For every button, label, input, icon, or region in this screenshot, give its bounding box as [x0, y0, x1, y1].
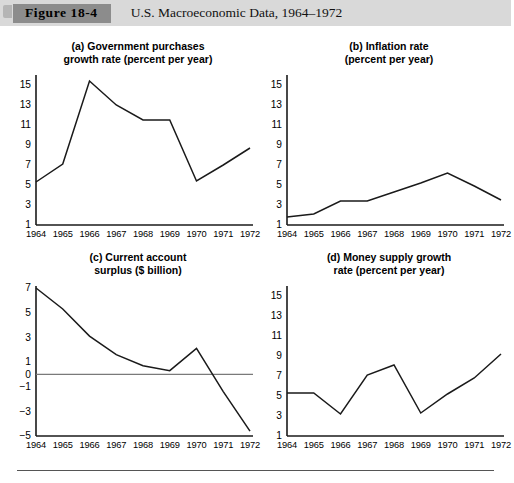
panel-b-plot: 13579111315 1964196519661967196819691970…: [257, 67, 507, 247]
x-tick-label: 1968: [381, 229, 408, 239]
x-tick-label: 1969: [407, 440, 434, 450]
x-tick-label: 1967: [103, 229, 130, 239]
x-tick-label: 1964: [274, 440, 301, 450]
x-tick-label: 1967: [354, 440, 381, 450]
y-tick-label: 15: [271, 290, 283, 301]
page-corner-marker: [3, 5, 12, 18]
panel-c-x-axis-labels: 196419651966196719681969197019711972: [23, 440, 264, 450]
y-tick-label: 7: [276, 159, 282, 170]
x-tick-label: 1969: [407, 229, 434, 239]
y-tick-label: 13: [271, 99, 283, 110]
x-tick-label: 1970: [183, 440, 210, 450]
x-tick-label: 1966: [327, 440, 354, 450]
y-tick-label: 9: [276, 350, 282, 361]
x-tick-label: 1968: [130, 440, 157, 450]
y-tick-label: 3: [25, 332, 31, 343]
data-series-line: [36, 81, 250, 182]
panel-b-svg: 13579111315: [257, 67, 507, 247]
x-tick-label: 1966: [76, 440, 103, 450]
x-tick-label: 1971: [461, 440, 488, 450]
y-tick-label: 3: [276, 410, 282, 421]
footer-rule: [17, 470, 494, 471]
y-tick-label: 5: [25, 307, 31, 318]
x-tick-label: 1967: [354, 229, 381, 239]
y-tick-label: 7: [25, 282, 31, 293]
y-tick-label: 7: [25, 159, 31, 170]
x-tick-label: 1969: [156, 440, 183, 450]
x-tick-label: 1972: [488, 229, 514, 239]
x-tick-label: 1964: [23, 440, 50, 450]
panel-b-x-axis-labels: 196419651966196719681969197019711972: [274, 229, 514, 239]
x-tick-label: 1965: [49, 229, 76, 239]
y-tick-label: −3: [19, 406, 31, 417]
y-tick-label: 1: [25, 356, 31, 367]
figure-caption: U.S. Macroeconomic Data, 1964–1972: [131, 5, 342, 21]
x-tick-label: 1966: [76, 229, 103, 239]
x-tick-label: 1968: [130, 229, 157, 239]
data-series-line: [36, 288, 250, 431]
x-tick-label: 1964: [274, 229, 301, 239]
panel-a-title: (a) Government purchases growth rate (pe…: [6, 36, 256, 65]
x-tick-label: 1964: [23, 229, 50, 239]
y-tick-label: 9: [276, 139, 282, 150]
panel-c-plot: −5−3−101357 1964196519661967196819691970…: [6, 278, 256, 458]
panel-a-plot: 13579111315 1964196519661967196819691970…: [6, 67, 256, 247]
panel-d-svg: 13579111315: [257, 278, 507, 458]
x-tick-label: 1972: [488, 440, 514, 450]
y-tick-label: 5: [276, 179, 282, 190]
y-tick-label: 7: [276, 370, 282, 381]
panel-d-x-axis-labels: 196419651966196719681969197019711972: [274, 440, 514, 450]
panel-c-svg: −5−3−101357: [6, 278, 256, 458]
y-tick-label: 15: [20, 79, 32, 90]
panel-b-title: (b) Inflation rate (percent per year): [257, 36, 507, 65]
panel-d-title: (d) Money supply growth rate (percent pe…: [257, 247, 507, 276]
y-tick-label: −1: [19, 381, 31, 392]
panel-a-x-axis-labels: 196419651966196719681969197019711972: [23, 229, 264, 239]
panel-a-government-purchases: (a) Government purchases growth rate (pe…: [6, 36, 256, 248]
figure-number-tab: Figure 18-4: [13, 4, 111, 23]
x-tick-label: 1970: [183, 229, 210, 239]
x-tick-label: 1967: [103, 440, 130, 450]
y-tick-label: 13: [271, 310, 283, 321]
x-tick-label: 1971: [210, 229, 237, 239]
x-tick-label: 1971: [461, 229, 488, 239]
y-tick-label: 5: [25, 179, 31, 190]
y-tick-label: 0: [25, 369, 31, 380]
chart-panel-grid: (a) Government purchases growth rate (pe…: [0, 36, 511, 461]
x-tick-label: 1965: [300, 229, 327, 239]
panel-d-money-supply: (d) Money supply growth rate (percent pe…: [257, 247, 507, 459]
y-tick-label: 11: [271, 119, 282, 130]
y-tick-label: 9: [25, 139, 31, 150]
x-tick-label: 1970: [434, 229, 461, 239]
x-tick-label: 1965: [300, 440, 327, 450]
data-series-line: [287, 173, 501, 217]
y-tick-label: 15: [271, 79, 283, 90]
panel-c-title: (c) Current account surplus ($ billion): [6, 247, 256, 276]
panel-a-svg: 13579111315: [6, 67, 256, 247]
x-tick-label: 1968: [381, 440, 408, 450]
panel-c-current-account: (c) Current account surplus ($ billion) …: [6, 247, 256, 459]
panel-b-inflation-rate: (b) Inflation rate (percent per year) 13…: [257, 36, 507, 248]
x-tick-label: 1965: [49, 440, 76, 450]
y-tick-label: 11: [20, 119, 31, 130]
x-tick-label: 1971: [210, 440, 237, 450]
x-tick-label: 1966: [327, 229, 354, 239]
y-tick-label: 3: [25, 199, 31, 210]
figure-header-band: Figure 18-4 U.S. Macroeconomic Data, 196…: [0, 0, 511, 26]
y-tick-label: 5: [276, 390, 282, 401]
y-tick-label: 11: [271, 330, 282, 341]
x-tick-label: 1970: [434, 440, 461, 450]
data-series-line: [287, 354, 501, 414]
x-tick-label: 1969: [156, 229, 183, 239]
panel-d-plot: 13579111315 1964196519661967196819691970…: [257, 278, 507, 458]
y-tick-label: 3: [276, 199, 282, 210]
y-tick-label: 13: [20, 99, 32, 110]
